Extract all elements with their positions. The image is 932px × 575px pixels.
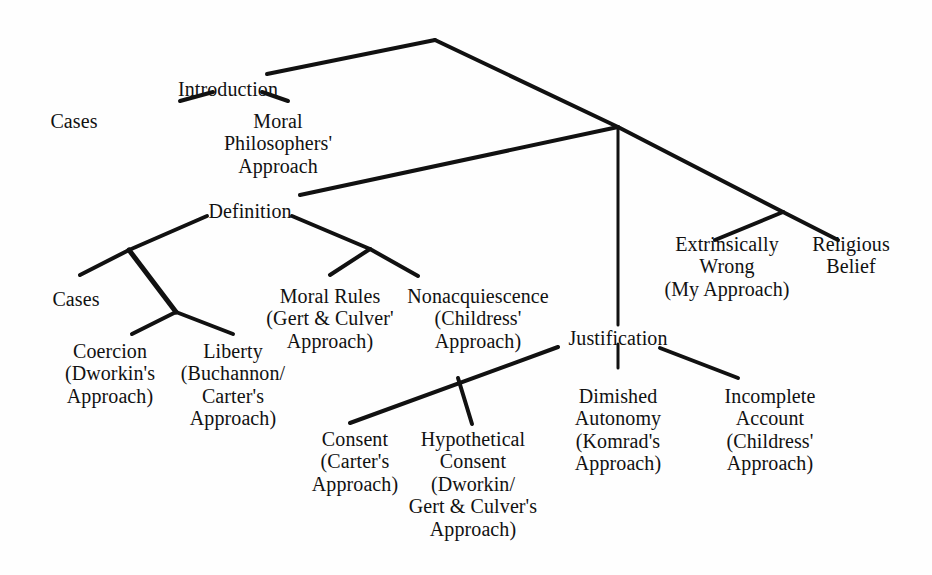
tree-node-dimished-autonomy: DimishedAutonomy(Komrad'sApproach) — [575, 385, 661, 475]
tree-node-introduction: Introduction — [178, 78, 278, 100]
tree-node-label-line: Approach) — [409, 518, 537, 540]
tree-node-label-line: Extrinsically — [664, 233, 789, 255]
tree-node-label-line: Belief — [812, 255, 890, 277]
tree-edge-justification-to-consent — [350, 347, 558, 423]
tree-node-label-line: Cases — [50, 110, 97, 132]
tree-diagram-canvas: IntroductionCasesMoralPhilosophers'Appro… — [0, 0, 932, 575]
tree-node-label-line: (Buchannon/ — [181, 362, 285, 384]
tree-node-moral-rules: Moral Rules(Gert & Culver'Approach) — [266, 285, 393, 352]
tree-node-consent: Consent(Carter'sApproach) — [312, 428, 398, 495]
tree-edge-junction-to-definition — [300, 127, 618, 195]
tree-node-label-line: Account — [725, 407, 816, 429]
tree-node-hypothetical-consent: HypotheticalConsent(Dworkin/Gert & Culve… — [409, 428, 537, 540]
tree-node-religious-belief: ReligiousBelief — [812, 233, 890, 278]
tree-node-label-line: Dimished — [575, 385, 661, 407]
tree-node-label-line: Approach) — [65, 385, 155, 407]
tree-node-label-line: Consent — [409, 450, 537, 472]
tree-node-label-line: Religious — [812, 233, 890, 255]
tree-node-label-line: Justification — [568, 327, 667, 349]
tree-node-label-line: Consent — [312, 428, 398, 450]
tree-node-coercion: Coercion(Dworkin'sApproach) — [65, 340, 155, 407]
tree-node-label-line: Hypothetical — [409, 428, 537, 450]
tree-edge-junction-to-right-split — [618, 127, 783, 212]
tree-node-label-line: Gert & Culver's — [409, 495, 537, 517]
tree-node-nonacquiescence: Nonacquiescence(Childress'Approach) — [407, 285, 548, 352]
tree-node-label-line: Moral Rules — [266, 285, 393, 307]
tree-node-label-line: Introduction — [178, 78, 278, 100]
tree-edge-left-fork-to-mid-fork — [129, 250, 176, 312]
tree-edge-root-to-junction — [435, 40, 618, 127]
tree-node-label-line: Incomplete — [725, 385, 816, 407]
tree-node-definition: Definition — [208, 200, 291, 222]
tree-node-label-line: (Dworkin/ — [409, 473, 537, 495]
tree-node-label-line: Approach) — [312, 473, 398, 495]
tree-edge-left-fork-to-cases — [80, 250, 129, 275]
tree-node-label-line: Wrong — [664, 255, 789, 277]
tree-node-label-line: Definition — [208, 200, 291, 222]
tree-node-label-line: Nonacquiescence — [407, 285, 548, 307]
tree-node-label-line: Approach) — [181, 407, 285, 429]
tree-node-label-line: (Dworkin's — [65, 362, 155, 384]
tree-node-label-line: Autonomy — [575, 407, 661, 429]
tree-node-label-line: Approach) — [407, 330, 548, 352]
tree-edge-mid-fork-to-liberty — [176, 312, 233, 334]
tree-node-label-line: (Gert & Culver' — [266, 307, 393, 329]
tree-node-incomplete-account: IncompleteAccount(Childress'Approach) — [725, 385, 816, 475]
tree-node-moral-philosophers-approach: MoralPhilosophers'Approach — [224, 110, 332, 177]
tree-node-def-cases: Cases — [52, 288, 99, 310]
tree-edge-right-fork-to-moral-rules — [330, 249, 370, 275]
tree-edge-definition-to-right-fork — [292, 216, 370, 249]
tree-node-intro-cases: Cases — [50, 110, 97, 132]
tree-node-liberty: Liberty(Buchannon/Carter'sApproach) — [181, 340, 285, 430]
tree-edge-definition-to-left-fork — [129, 216, 207, 250]
tree-node-extrinsically-wrong: ExtrinsicallyWrong(My Approach) — [664, 233, 789, 300]
tree-node-label-line: (My Approach) — [664, 278, 789, 300]
tree-node-label-line: Cases — [52, 288, 99, 310]
tree-node-label-line: (Childress' — [407, 307, 548, 329]
tree-node-label-line: Approach) — [725, 452, 816, 474]
tree-edge-mid-fork-to-coercion — [132, 312, 176, 334]
tree-edge-right-fork-to-nonacquiescence — [370, 249, 418, 276]
tree-node-label-line: Approach — [224, 155, 332, 177]
tree-node-label-line: (Komrad's — [575, 430, 661, 452]
tree-edge-justification-to-incomplete-account — [660, 348, 738, 378]
tree-node-label-line: Carter's — [181, 385, 285, 407]
tree-edge-consent-fork-to-hypothetical — [458, 378, 472, 424]
tree-node-label-line: (Carter's — [312, 450, 398, 472]
tree-node-label-line: (Childress' — [725, 430, 816, 452]
tree-node-label-line: Coercion — [65, 340, 155, 362]
tree-edge-root-to-introduction — [267, 40, 435, 74]
tree-node-label-line: Moral — [224, 110, 332, 132]
tree-node-label-line: Approach) — [575, 452, 661, 474]
tree-node-justification: Justification — [568, 327, 667, 349]
tree-node-label-line: Philosophers' — [224, 132, 332, 154]
tree-node-label-line: Approach) — [266, 330, 393, 352]
